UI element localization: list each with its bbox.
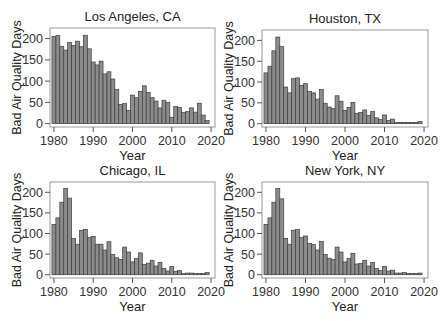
- bar-1985: [72, 238, 76, 274]
- y-axis-label: Bad Air Quality Days: [10, 173, 24, 288]
- bar-1998: [123, 247, 127, 275]
- bar-2007: [158, 108, 162, 124]
- y-tick-label: 150: [22, 206, 43, 220]
- chart-title: Houston, TX: [309, 11, 381, 26]
- x-tick-label: 1990: [292, 134, 320, 148]
- chart-panel-houston: Houston, TX05010015020019801990200020102…: [212, 0, 434, 160]
- bar-1980: [264, 73, 268, 124]
- bar-1997: [331, 259, 335, 274]
- bar-2018: [414, 122, 418, 123]
- x-tick-label: 2010: [158, 285, 186, 299]
- bar-1998: [335, 96, 339, 124]
- bar-2019: [418, 122, 422, 124]
- bar-2010: [170, 117, 174, 123]
- y-tick-label: 200: [234, 34, 255, 48]
- bar-2013: [182, 273, 186, 274]
- bar-1987: [292, 230, 296, 275]
- x-tick-label: 2000: [331, 285, 359, 299]
- bar-1981: [268, 218, 272, 275]
- bar-2012: [178, 107, 182, 123]
- chart-panel-los-angeles: Los Angeles, CA0501001502001980199020002…: [0, 0, 222, 160]
- y-tick-label: 0: [248, 268, 255, 282]
- bar-2011: [174, 271, 178, 274]
- bar-2004: [359, 112, 363, 123]
- bar-1992: [311, 93, 315, 124]
- chart-title: Los Angeles, CA: [84, 9, 180, 24]
- bar-2013: [394, 273, 398, 275]
- bar-1996: [327, 258, 331, 274]
- bar-1982: [272, 51, 276, 124]
- bar-2001: [134, 98, 138, 124]
- bar-1992: [311, 245, 315, 275]
- x-tick-label: 2000: [119, 134, 147, 148]
- bar-1999: [127, 110, 131, 123]
- bar-1994: [319, 90, 323, 124]
- bar-1986: [76, 41, 80, 123]
- y-tick-label: 100: [234, 76, 255, 90]
- bar-1989: [87, 49, 91, 124]
- x-axis-label: Year: [332, 299, 359, 314]
- bar-1990: [91, 236, 95, 274]
- x-axis: 19801990200020102020: [40, 278, 225, 299]
- y-axis: 050100150200: [234, 186, 262, 282]
- bar-1986: [76, 244, 80, 274]
- chart-svg: Chicago, IL05010015020019801990200020102…: [0, 154, 222, 314]
- bar-1991: [307, 92, 311, 124]
- bar-2018: [201, 273, 205, 274]
- bar-2019: [205, 121, 209, 124]
- bar-2012: [178, 271, 182, 275]
- bar-2004: [146, 93, 150, 124]
- bar-1981: [268, 66, 272, 123]
- y-tick-label: 150: [22, 53, 43, 67]
- bar-2015: [402, 273, 406, 275]
- bar-2007: [371, 262, 375, 274]
- bar-2009: [166, 271, 170, 275]
- y-tick-label: 0: [248, 117, 255, 131]
- bar-2018: [414, 273, 418, 274]
- x-axis: 19801990200020102020: [252, 127, 438, 148]
- bar-1983: [64, 50, 68, 124]
- bar-2016: [193, 273, 197, 274]
- bar-2002: [138, 91, 142, 123]
- chart-title: New York, NY: [305, 163, 386, 178]
- bar-2013: [394, 122, 398, 123]
- bar-2001: [347, 259, 351, 275]
- bar-2009: [166, 102, 170, 123]
- bar-1990: [304, 236, 308, 275]
- bar-2012: [390, 119, 394, 124]
- bar-series: [264, 37, 422, 124]
- bar-2015: [189, 108, 193, 124]
- bar-series: [52, 35, 209, 123]
- bar-2008: [375, 269, 379, 275]
- bar-2017: [410, 122, 414, 123]
- bar-1989: [300, 238, 304, 275]
- bar-1985: [72, 45, 76, 123]
- bar-1988: [83, 229, 87, 274]
- bar-1996: [327, 107, 331, 124]
- x-tick-label: 1990: [79, 285, 107, 299]
- bar-2014: [398, 273, 402, 275]
- x-tick-label: 2020: [410, 134, 438, 148]
- bar-2015: [189, 273, 193, 275]
- x-tick-label: 1990: [79, 134, 107, 148]
- y-tick-label: 200: [22, 186, 43, 200]
- bar-1987: [79, 231, 83, 275]
- chart-panel-new-york: New York, NY0501001502001980199020002010…: [212, 154, 434, 314]
- x-tick-label: 1980: [40, 285, 68, 299]
- chart-title: Chicago, IL: [100, 163, 166, 178]
- bar-1986: [288, 93, 292, 124]
- y-tick-label: 100: [22, 75, 43, 89]
- bar-2004: [359, 264, 363, 275]
- bar-2000: [131, 95, 135, 123]
- bar-1995: [111, 79, 115, 124]
- bar-2004: [146, 263, 150, 275]
- y-tick-label: 100: [234, 227, 255, 241]
- bar-2003: [142, 264, 146, 274]
- y-tick-label: 0: [36, 117, 43, 131]
- x-tick-label: 1980: [252, 134, 280, 148]
- bar-2002: [138, 253, 142, 275]
- x-tick-label: 2020: [410, 285, 438, 299]
- x-tick-label: 2010: [158, 134, 186, 148]
- bar-1980: [264, 224, 268, 274]
- y-tick-label: 150: [234, 206, 255, 220]
